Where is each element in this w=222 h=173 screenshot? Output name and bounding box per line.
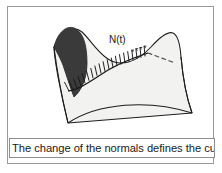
caption-text: The change of the normals defines the cu… [10,142,215,155]
saddle-surface-illustration: N(t) [8,7,213,134]
caption-box: The change of the normals defines the cu… [9,138,215,158]
figure-panel: N(t) The change of the normals defines t… [0,0,222,173]
surface-diagram-area: N(t) [8,7,213,134]
normal-field-label: N(t) [109,34,126,45]
